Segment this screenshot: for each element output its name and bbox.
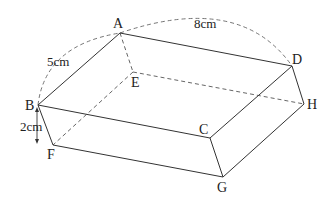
dimension-label-ad: 8cm bbox=[194, 16, 216, 31]
vertex-label-g: G bbox=[217, 180, 227, 195]
vertex-label-f: F bbox=[47, 147, 55, 162]
dimension-label-ab: 5cm bbox=[47, 54, 69, 69]
vertex-label-h: H bbox=[307, 97, 317, 112]
diagram-canvas: A B C D E F G H 5cm 8cm 2cm bbox=[0, 0, 335, 204]
edge-gh bbox=[223, 104, 304, 177]
vertex-label-d: D bbox=[292, 52, 302, 67]
dimension-label-bf: 2cm bbox=[20, 119, 42, 134]
edge-cg bbox=[210, 138, 223, 177]
vertex-label-e: E bbox=[131, 75, 140, 90]
edge-ae bbox=[120, 33, 133, 72]
vertex-label-b: B bbox=[25, 98, 34, 113]
edge-ab bbox=[38, 33, 120, 105]
edge-eh bbox=[133, 72, 304, 104]
cuboid-figure: A B C D E F G H 5cm 8cm 2cm bbox=[0, 0, 335, 204]
edge-bc bbox=[38, 105, 210, 138]
edge-ef bbox=[53, 72, 133, 145]
vertex-label-c: C bbox=[199, 122, 208, 137]
edge-cd bbox=[210, 66, 292, 138]
edge-ad bbox=[120, 33, 292, 66]
edge-fg bbox=[53, 145, 223, 177]
edge-dh bbox=[292, 66, 304, 104]
vertex-label-a: A bbox=[113, 16, 124, 31]
